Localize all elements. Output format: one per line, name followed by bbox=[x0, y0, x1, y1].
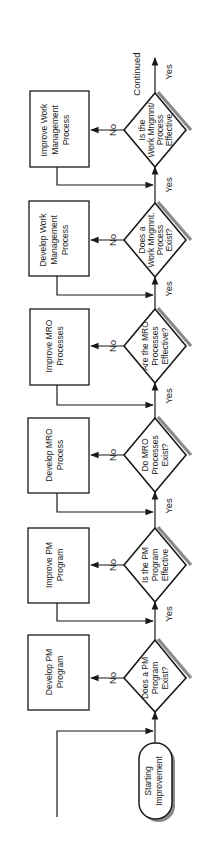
svg-text:Is the PM: Is the PM bbox=[140, 547, 150, 583]
action-box-develop-pm: Develop PM Program bbox=[28, 635, 89, 710]
action-box-develop-work-mgmt: Develop Work Management Process bbox=[29, 201, 89, 276]
no-label-d4: No bbox=[107, 340, 118, 352]
svg-text:Effective?: Effective? bbox=[160, 327, 170, 364]
no-label-d3: No bbox=[107, 449, 118, 461]
no-label-d2: No bbox=[107, 559, 118, 571]
action-box-improve-pm: Improve PM Program bbox=[28, 528, 89, 603]
return-a5 bbox=[57, 276, 153, 295]
svg-text:Develop PM: Develop PM bbox=[44, 649, 54, 695]
start-terminator: Starting Improvement bbox=[139, 743, 175, 822]
decision-mro-effective: Are the MRO Processes Effective? bbox=[124, 308, 191, 383]
svg-text:Develop MRO: Develop MRO bbox=[44, 428, 54, 482]
svg-text:Program: Program bbox=[150, 662, 160, 695]
return-a4 bbox=[57, 385, 153, 405]
decision-pm-exists: Does a PM Program Exist? bbox=[124, 639, 191, 712]
svg-text:Processes: Processes bbox=[55, 326, 65, 366]
svg-text:Improve PM: Improve PM bbox=[44, 542, 54, 588]
svg-text:Effective: Effective bbox=[164, 114, 174, 147]
return-a2 bbox=[57, 603, 153, 621]
yes-label-d6: Yes bbox=[163, 64, 174, 80]
svg-text:Does a PM: Does a PM bbox=[140, 657, 150, 699]
start-label-line2: Improvement bbox=[154, 756, 164, 806]
yes-label-d4: Yes bbox=[163, 281, 174, 297]
svg-text:Improve Work: Improve Work bbox=[39, 103, 49, 156]
yes-label-d5: Yes bbox=[163, 177, 174, 193]
svg-text:Develop Work: Develop Work bbox=[38, 213, 48, 267]
decision-pm-effective: Is the PM Program Effective bbox=[124, 527, 191, 602]
svg-text:Processes: Processes bbox=[150, 326, 160, 366]
svg-text:Are the MRO: Are the MRO bbox=[140, 321, 150, 371]
decision-work-mgmt-exists: Does a Work Mngmnt. Process Exist? bbox=[124, 202, 191, 277]
svg-text:Process: Process bbox=[61, 115, 71, 146]
svg-text:Management: Management bbox=[49, 215, 59, 265]
svg-text:Program: Program bbox=[55, 549, 65, 582]
action-box-improve-mro: Improve MRO Processes bbox=[30, 309, 89, 385]
no-label-d6: No bbox=[107, 124, 118, 136]
return-a3 bbox=[57, 493, 153, 512]
svg-text:Processes: Processes bbox=[150, 435, 160, 475]
decision-mro-exists: Do MRO Processes Exist? bbox=[124, 417, 191, 492]
svg-text:Program: Program bbox=[55, 656, 65, 689]
svg-text:Do MRO: Do MRO bbox=[140, 438, 150, 471]
continued-label: Continued bbox=[131, 52, 142, 95]
no-label-d5: No bbox=[107, 234, 118, 246]
svg-text:Program: Program bbox=[150, 549, 160, 582]
flowchart: Starting Improvement Develop PM Program … bbox=[0, 0, 209, 861]
svg-text:Exist?: Exist? bbox=[160, 443, 170, 466]
yes-label-d1: Yes bbox=[163, 606, 174, 622]
start-label-line1: Starting bbox=[143, 766, 153, 796]
return-a6 bbox=[57, 167, 153, 185]
action-box-develop-mro: Develop MRO Process bbox=[28, 418, 89, 493]
svg-text:Effective: Effective bbox=[160, 549, 170, 582]
decision-work-mgmt-effective: Is the Work Mngmnt/ Process Effective bbox=[124, 92, 191, 167]
no-label-d1: No bbox=[107, 672, 118, 684]
svg-text:Process: Process bbox=[60, 225, 70, 256]
svg-text:Improve MRO: Improve MRO bbox=[44, 319, 54, 372]
yes-label-d2: Yes bbox=[163, 498, 174, 514]
yes-label-d3: Yes bbox=[163, 388, 174, 404]
svg-text:Management: Management bbox=[50, 105, 60, 155]
svg-text:Exist?: Exist? bbox=[160, 666, 170, 689]
svg-text:Exist?: Exist? bbox=[164, 228, 174, 251]
svg-text:Process: Process bbox=[55, 440, 65, 471]
action-box-improve-work-mgmt: Improve Work Management Process bbox=[30, 91, 89, 167]
